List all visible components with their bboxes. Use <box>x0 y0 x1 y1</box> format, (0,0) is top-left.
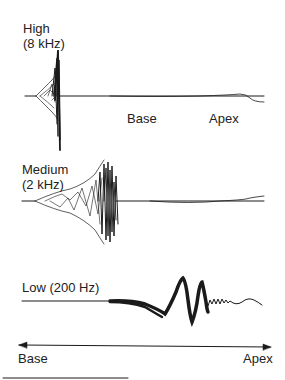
base-apex-axis-arrow <box>19 342 271 350</box>
high-wave <box>25 50 264 150</box>
traveling-wave-diagram <box>0 0 285 380</box>
medium-wave <box>22 160 264 244</box>
low-wave <box>22 278 262 322</box>
